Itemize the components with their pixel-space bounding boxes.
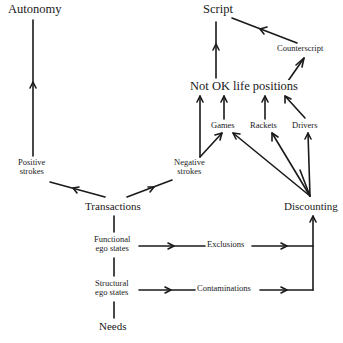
node-rackets: Rackets [250, 121, 277, 130]
edge-negative-to-games [200, 133, 222, 157]
node-transactions: Transactions [85, 200, 141, 212]
edge-discounting-to-rackets [272, 133, 310, 196]
node-functional-ego-states: Functional ego states [94, 235, 130, 254]
edge-transactions-to-negative [127, 180, 172, 197]
node-positive-strokes-line2: strokes [18, 167, 45, 176]
node-functional-line2: ego states [94, 244, 130, 253]
node-structural-ego-states: Structural ego states [95, 279, 129, 298]
node-negative-strokes-line2: strokes [174, 167, 205, 176]
arrow-icon [296, 58, 304, 67]
node-structural-line2: ego states [95, 288, 129, 297]
node-needs: Needs [99, 320, 127, 332]
node-autonomy: Autonomy [8, 3, 61, 17]
edge-counterscript-to-script [232, 18, 297, 43]
node-discounting: Discounting [284, 200, 338, 212]
node-positive-strokes: Positive strokes [18, 158, 45, 177]
edge-notok-to-counterscript [288, 58, 304, 81]
node-negative-strokes: Negative strokes [174, 158, 205, 177]
node-not-ok-life-positions: Not OK life positions [190, 80, 298, 94]
node-exclusions: Exclusions [207, 240, 244, 249]
node-contaminations: Contaminations [197, 284, 251, 293]
node-drivers: Drivers [292, 121, 318, 130]
node-counterscript: Counterscript [277, 44, 323, 53]
node-games: Games [211, 121, 235, 130]
edge-drivers-to-notok [285, 96, 305, 118]
edge-discounting-to-games [233, 133, 310, 196]
edge-discounting-to-drivers [308, 133, 310, 196]
edge-transactions-to-positive [50, 182, 105, 197]
node-script: Script [203, 3, 233, 17]
